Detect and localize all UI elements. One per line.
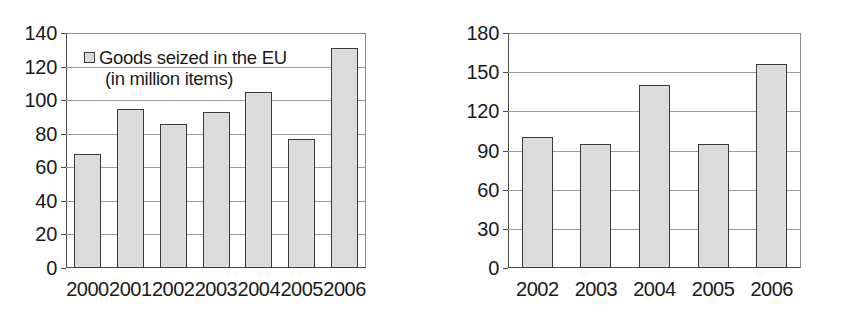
x-tick-label: 2006 xyxy=(323,278,366,301)
chart-eu: 020406080100120140 Goods seized in the E… xyxy=(0,0,440,324)
x-tick-label: 2004 xyxy=(237,278,280,301)
x-tick-label: 2005 xyxy=(280,278,323,301)
y-tick-label: 140 xyxy=(25,22,57,45)
y-tick-label: 100 xyxy=(25,89,57,112)
legend-eu: Goods seized in the EU (in million items… xyxy=(84,47,287,89)
y-tick-label: 0 xyxy=(488,257,499,280)
x-tick-label: 2002 xyxy=(508,278,567,301)
bar[interactable] xyxy=(331,48,358,268)
x-tick-label: 2006 xyxy=(742,278,801,301)
x-axis-labels-eu: 2000200120022003200420052006 xyxy=(66,278,366,301)
legend-text-eu: Goods seized in the EU (in million items… xyxy=(99,47,287,89)
charts-container: 020406080100120140 Goods seized in the E… xyxy=(0,0,845,324)
x-tick-label: 2002 xyxy=(152,278,195,301)
bar[interactable] xyxy=(117,109,144,268)
bar-slot xyxy=(567,33,626,268)
y-tick-label: 120 xyxy=(467,100,499,123)
y-tick-mark xyxy=(503,268,508,269)
x-tick-label: 2001 xyxy=(109,278,152,301)
y-tick-label: 0 xyxy=(46,257,57,280)
y-tick-label: 180 xyxy=(467,22,499,45)
bar[interactable] xyxy=(756,64,787,268)
bar[interactable] xyxy=(74,154,101,268)
bar[interactable] xyxy=(203,112,230,268)
bar[interactable] xyxy=(245,92,272,268)
bar[interactable] xyxy=(698,144,729,268)
legend-swatch-icon xyxy=(84,52,95,63)
bar[interactable] xyxy=(580,144,611,268)
bar[interactable] xyxy=(288,139,315,268)
x-tick-label: 2003 xyxy=(567,278,626,301)
legend-label-line2: (in million items) xyxy=(105,68,287,89)
x-tick-label: 2005 xyxy=(684,278,743,301)
bar[interactable] xyxy=(639,85,670,268)
y-tick-label: 120 xyxy=(25,55,57,78)
bar[interactable] xyxy=(160,124,187,268)
y-tick-label: 20 xyxy=(35,223,57,246)
y-tick-label: 60 xyxy=(477,178,499,201)
y-tick-label: 90 xyxy=(477,139,499,162)
y-tick-label: 60 xyxy=(35,156,57,179)
plot-wrap-usa: 0306090120150180 xyxy=(508,33,801,268)
bar[interactable] xyxy=(522,137,553,268)
bar-slot xyxy=(508,33,567,268)
y-tick-label: 40 xyxy=(35,189,57,212)
chart-usa: 0306090120150180 Goods seized in the USA… xyxy=(440,0,845,324)
bar-slot xyxy=(742,33,801,268)
y-tick-label: 150 xyxy=(467,61,499,84)
y-tick-label: 30 xyxy=(477,217,499,240)
x-tick-label: 2000 xyxy=(66,278,109,301)
bar-slot xyxy=(684,33,743,268)
y-tick-mark xyxy=(61,268,66,269)
x-tick-label: 2004 xyxy=(625,278,684,301)
y-tick-label: 80 xyxy=(35,122,57,145)
bar-slot xyxy=(625,33,684,268)
bar-slot xyxy=(323,33,366,268)
legend-label-line1: Goods seized in the EU xyxy=(99,47,287,68)
x-tick-label: 2003 xyxy=(195,278,238,301)
x-axis-labels-usa: 20022003200420052006 xyxy=(508,278,801,301)
bar-series-usa xyxy=(508,33,801,268)
